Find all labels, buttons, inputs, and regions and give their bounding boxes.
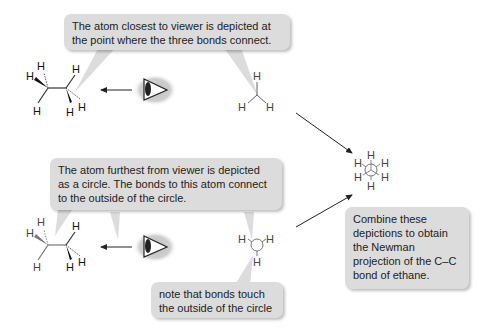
bubble-tail-note (235, 255, 253, 285)
svg-text:H: H (37, 60, 45, 72)
svg-text:H: H (354, 157, 362, 169)
callout-bond-note-text: note that bonds touch the outside of the… (159, 288, 272, 314)
svg-text:H: H (253, 256, 261, 268)
eye-icon (133, 74, 177, 106)
callout-bond-note: note that bonds touch the outside of the… (151, 282, 283, 318)
svg-text:H: H (66, 261, 74, 273)
bubble-tail-top-left (75, 45, 118, 92)
back-carbon-depiction: H H H (238, 233, 274, 268)
svg-text:H: H (72, 63, 80, 75)
svg-text:H: H (253, 70, 261, 82)
svg-text:H: H (26, 70, 34, 82)
svg-text:H: H (33, 261, 41, 273)
bubble-tail-bottom-left (55, 210, 72, 236)
svg-text:H: H (381, 171, 389, 183)
bubble-tail-bottom-mid-up (110, 212, 120, 240)
svg-text:H: H (33, 105, 41, 117)
svg-text:H: H (266, 101, 274, 113)
svg-text:H: H (78, 256, 86, 268)
svg-text:H: H (26, 227, 34, 239)
svg-text:H: H (367, 180, 375, 192)
arrow-to-newman-bottom (296, 195, 352, 227)
svg-text:H: H (78, 101, 86, 113)
svg-text:H: H (72, 220, 80, 232)
newman-projection: H H H H H H (354, 149, 389, 192)
callout-furthest-atom-text: The atom furthest from viewer is depicte… (58, 164, 267, 204)
svg-text:H: H (381, 157, 389, 169)
svg-text:H: H (238, 101, 246, 113)
callout-closest-atom-text: The atom closest to viewer is depicted a… (72, 20, 271, 46)
eye-icon-bottom (133, 231, 177, 263)
callout-combine: Combine these depictions to obtain the N… (345, 207, 469, 289)
svg-text:H: H (354, 171, 362, 183)
svg-text:H: H (367, 149, 375, 161)
svg-text:H: H (266, 233, 274, 245)
callout-combine-text: Combine these depictions to obtain the N… (353, 213, 456, 281)
callout-closest-atom: The atom closest to viewer is depicted a… (64, 14, 290, 50)
svg-text:H: H (66, 106, 74, 118)
arrow-to-newman-top (296, 113, 352, 153)
svg-text:H: H (37, 216, 45, 228)
svg-text:H: H (238, 233, 246, 245)
callout-furthest-atom: The atom furthest from viewer is depicte… (50, 158, 282, 210)
ethane-sawhorse-bottom: H H H H H H (26, 216, 86, 273)
